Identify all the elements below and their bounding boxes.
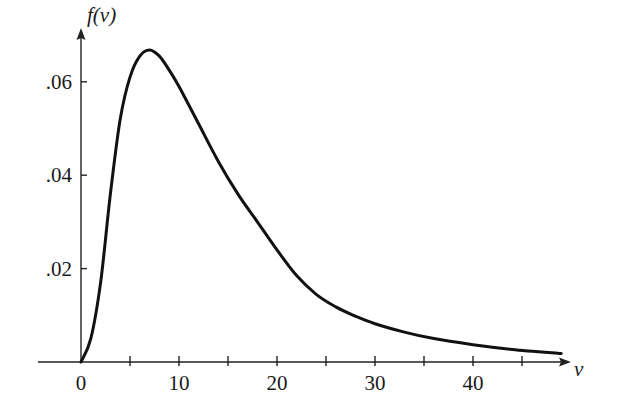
axes [38,28,571,367]
x-tick-label: 10 [169,371,190,395]
x-tick-label: 20 [267,371,288,395]
y-tick-label: .06 [46,70,72,94]
y-tick-label: .04 [46,163,73,187]
x-tick-label: 30 [365,371,386,395]
ticks [81,82,522,366]
x-tick-label: 0 [76,371,87,395]
x-axis-title: v [574,357,584,381]
chart: 010203040.02.04.06 f(v) v [0,0,618,420]
y-axis-title: f(v) [87,3,116,27]
y-tick-label: .02 [46,257,72,281]
x-tick-label: 40 [463,371,484,395]
density-curve [81,50,561,362]
